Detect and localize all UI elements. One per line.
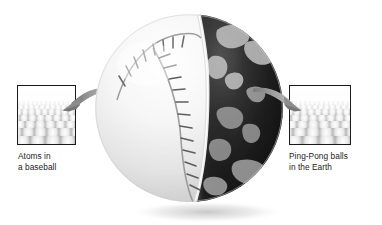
packed-spheres-texture <box>17 101 76 145</box>
scale-comparison-figure: Atoms in a baseball <box>0 0 382 225</box>
atoms-thumbnail <box>17 85 76 145</box>
sphere-svg <box>95 12 283 222</box>
baseball-highlight <box>117 42 177 86</box>
pingpong-thumbnail <box>289 85 351 145</box>
sphere-shadow <box>129 201 283 222</box>
sphere-body <box>95 12 283 204</box>
baseball-earth-sphere <box>95 12 283 208</box>
packed-spheres-texture <box>289 101 351 145</box>
right-caption: Ping-Pong balls in the Earth <box>289 151 382 172</box>
